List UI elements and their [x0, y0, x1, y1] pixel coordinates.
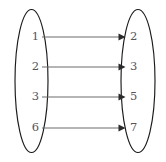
mapping-arrow-1 — [42, 34, 126, 41]
mapping-arrow-2-head — [119, 64, 126, 71]
domain-element-3: 3 — [32, 89, 39, 103]
codomain-set-ellipse — [121, 10, 155, 153]
domain-element-1: 1 — [32, 29, 39, 43]
mapping-arrow-2 — [42, 64, 126, 71]
domain-element-2: 2 — [32, 59, 39, 73]
codomain-element-1: 2 — [130, 29, 137, 43]
domain-element-4: 6 — [32, 120, 39, 134]
codomain-element-3: 5 — [130, 89, 137, 103]
codomain-element-2: 3 — [130, 59, 137, 73]
mapping-arrow-4 — [42, 125, 126, 132]
mapping-arrow-3 — [42, 94, 126, 101]
codomain-element-4: 7 — [130, 120, 137, 134]
mapping-diagram-canvas: 1 2 3 6 2 3 5 7 — [0, 0, 166, 162]
function-mapping-diagram: 1 2 3 6 2 3 5 7 — [0, 0, 166, 162]
